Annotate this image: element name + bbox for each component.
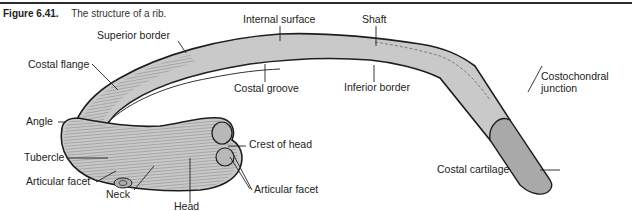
label-internal-surface: Internal surface — [243, 14, 315, 26]
rib-illustration — [0, 0, 632, 211]
label-costal-flange: Costal flange — [28, 59, 89, 71]
label-junction: junction — [541, 83, 577, 95]
label-angle: Angle — [26, 116, 53, 128]
label-head: Head — [174, 201, 199, 211]
label-crest-of-head: Crest of head — [249, 139, 312, 151]
costal-cartilage — [490, 119, 552, 194]
label-costal-groove: Costal groove — [234, 83, 299, 95]
label-costal-cartilage: Costal cartilage — [437, 164, 509, 176]
label-articular-facet-head: Articular facet — [254, 184, 318, 196]
label-tubercle: Tubercle — [24, 152, 64, 164]
label-neck: Neck — [106, 189, 130, 201]
tubercle-facet — [114, 178, 132, 188]
label-inferior-border: Inferior border — [344, 82, 410, 94]
head-facet-lower — [216, 148, 234, 166]
label-superior-border: Superior border — [97, 30, 170, 42]
label-shaft: Shaft — [362, 14, 387, 26]
head-facet-upper — [212, 122, 232, 144]
label-articular-facet-tubercle: Articular facet — [26, 176, 90, 188]
label-costochondral: Costochondral — [541, 71, 609, 83]
